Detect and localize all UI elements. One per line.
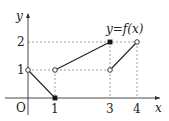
closed-point [108,40,112,44]
curve-label: y=f(x) [105,22,144,36]
y-axis-arrow-icon [26,13,30,18]
guide-lines [28,42,137,98]
open-point [53,68,58,73]
x-axis-label: x [155,101,162,115]
x-tick-3: 3 [106,102,114,116]
x-tick-1: 1 [51,102,59,116]
x-axis-arrow-icon [155,96,160,100]
y-axis-label: y [15,9,23,23]
open-point [135,40,140,45]
origin-label: O [16,101,26,115]
x-tick-4: 4 [133,102,141,116]
y-tick-1: 1 [17,63,25,77]
y-tick-2: 2 [17,35,25,49]
graph-points [26,40,140,100]
open-point [108,68,113,73]
closed-point [53,96,57,100]
open-point [26,68,31,73]
function-graph: y=f(x) y x O 1 3 4 1 2 [0,0,169,121]
